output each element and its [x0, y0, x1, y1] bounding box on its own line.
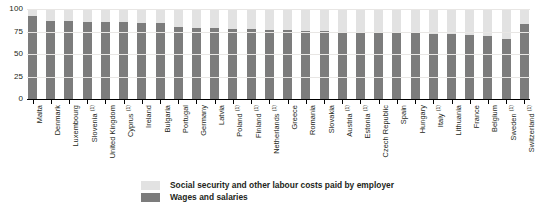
chart-legend: Social security and other labour costs p…	[141, 181, 394, 202]
x-category-label[interactable]: Slovenia (1)	[91, 105, 98, 142]
bar-segment-social-security[interactable]	[392, 9, 401, 33]
x-category-label[interactable]: Finland (1)	[255, 105, 262, 138]
x-category-label[interactable]: Portugal	[182, 105, 189, 133]
bar-segment-wages-salaries[interactable]	[119, 22, 128, 99]
x-category-label[interactable]: Greece	[291, 105, 298, 130]
bar-segment-wages-salaries[interactable]	[411, 33, 420, 99]
bar-segment-social-security[interactable]	[192, 9, 201, 28]
x-category-label[interactable]: Cyprus (1)	[127, 105, 134, 137]
x-category-cell: Czech Republic	[374, 105, 383, 167]
bar-segment-wages-salaries[interactable]	[210, 28, 219, 99]
bar-segment-wages-salaries[interactable]	[320, 31, 329, 99]
bar-segment-social-security[interactable]	[101, 9, 110, 22]
bar-segment-social-security[interactable]	[210, 9, 219, 28]
bar-segment-wages-salaries[interactable]	[192, 28, 201, 99]
bar-segment-wages-salaries[interactable]	[520, 24, 529, 99]
bar-segment-social-security[interactable]	[28, 9, 37, 16]
bar-segment-wages-salaries[interactable]	[301, 31, 310, 99]
x-category-label[interactable]: Bulgaria	[164, 105, 171, 133]
bar-segment-social-security[interactable]	[46, 9, 55, 21]
bar-segment-social-security[interactable]	[174, 9, 183, 27]
x-category-label[interactable]: Belgium	[491, 105, 498, 132]
x-category-cell: Slovenia (1)	[83, 105, 92, 167]
bar-segment-wages-salaries[interactable]	[228, 29, 237, 99]
gridline-75	[27, 32, 530, 33]
bar-segment-wages-salaries[interactable]	[338, 32, 347, 100]
bar-segment-wages-salaries[interactable]	[28, 16, 37, 99]
x-category-label[interactable]: Latvia	[218, 105, 225, 125]
bar-segment-wages-salaries[interactable]	[64, 21, 73, 99]
bar-segment-social-security[interactable]	[447, 9, 456, 34]
bar-segment-social-security[interactable]	[283, 9, 292, 30]
x-category-label[interactable]: Spain	[400, 105, 407, 124]
bar-segment-social-security[interactable]	[338, 9, 347, 32]
bar-segment-wages-salaries[interactable]	[429, 34, 438, 99]
bar-segment-social-security[interactable]	[137, 9, 146, 23]
x-category-label[interactable]: Austria (1)	[346, 105, 353, 137]
x-category-label[interactable]: Italy (1)	[437, 105, 444, 127]
x-category-cell: Slovakia	[320, 105, 329, 167]
bar-segment-social-security[interactable]	[356, 9, 365, 32]
bar-segment-wages-salaries[interactable]	[265, 30, 274, 99]
bar-segment-wages-salaries[interactable]	[465, 35, 474, 99]
x-category-cell: Austria (1)	[338, 105, 347, 167]
gridline-25	[27, 77, 530, 78]
bar-segment-social-security[interactable]	[265, 9, 274, 30]
x-category-cell: Spain	[392, 105, 401, 167]
bar-segment-social-security[interactable]	[83, 9, 92, 22]
bar-segment-social-security[interactable]	[64, 9, 73, 21]
gridline-100	[27, 9, 530, 10]
bar-segment-wages-salaries[interactable]	[447, 34, 456, 99]
footnote-marker: (1)	[125, 105, 131, 111]
x-category-label[interactable]: Ireland	[145, 105, 152, 128]
x-category-label[interactable]: Denmark	[54, 105, 61, 135]
x-category-label[interactable]: Poland (1)	[236, 105, 243, 137]
x-category-label[interactable]: Switzerland (1)	[528, 105, 535, 152]
x-category-label[interactable]: Netherlands (1)	[273, 105, 280, 154]
bar-segment-wages-salaries[interactable]	[101, 22, 110, 99]
legend-item[interactable]: Wages and salaries	[141, 193, 394, 202]
x-category-label[interactable]: Hungary	[419, 105, 426, 133]
bar-segment-wages-salaries[interactable]	[283, 30, 292, 99]
bar-segment-wages-salaries[interactable]	[483, 36, 492, 99]
bar-segment-social-security[interactable]	[228, 9, 237, 29]
bar-segment-wages-salaries[interactable]	[174, 27, 183, 99]
x-category-label[interactable]: Luxembourg	[72, 105, 79, 147]
plot-area	[27, 9, 530, 100]
bar-segment-social-security[interactable]	[429, 9, 438, 34]
x-category-cell: Poland (1)	[228, 105, 237, 167]
bar-segment-social-security[interactable]	[301, 9, 310, 31]
bar-segment-wages-salaries[interactable]	[83, 22, 92, 99]
x-category-label[interactable]: United Kingdom	[109, 105, 116, 158]
bar-segment-social-security[interactable]	[374, 9, 383, 32]
x-category-label[interactable]: France	[473, 105, 480, 128]
bar-segment-social-security[interactable]	[156, 9, 165, 23]
bar-segment-wages-salaries[interactable]	[374, 32, 383, 99]
x-category-label[interactable]: Malta	[36, 105, 43, 123]
x-category-label[interactable]: Czech Republic	[382, 105, 389, 157]
bar-segment-wages-salaries[interactable]	[247, 29, 256, 99]
footnote-marker: (1)	[507, 105, 513, 111]
bar-segment-social-security[interactable]	[520, 9, 529, 24]
bar-segment-social-security[interactable]	[247, 9, 256, 29]
x-category-label[interactable]: Germany	[200, 105, 207, 136]
bar-segment-social-security[interactable]	[119, 9, 128, 22]
x-category-label[interactable]: Slovakia	[328, 105, 335, 133]
legend-item[interactable]: Social security and other labour costs p…	[141, 181, 394, 190]
bar-segment-social-security[interactable]	[320, 9, 329, 31]
bar-segment-wages-salaries[interactable]	[502, 39, 511, 99]
x-category-label[interactable]: Sweden (1)	[510, 105, 517, 140]
bar-segment-wages-salaries[interactable]	[392, 33, 401, 99]
x-category-cell: Estonia (1)	[356, 105, 365, 167]
bar-segment-wages-salaries[interactable]	[156, 23, 165, 99]
x-category-label[interactable]: Lithuania	[455, 105, 462, 135]
bar-segment-wages-salaries[interactable]	[356, 32, 365, 99]
x-category-label[interactable]: Estonia (1)	[364, 105, 371, 138]
bar-segment-social-security[interactable]	[502, 9, 511, 39]
footnote-marker: (1)	[343, 105, 349, 111]
x-category-label[interactable]: Romania	[309, 105, 316, 135]
bar-segment-social-security[interactable]	[411, 9, 420, 33]
y-axis: 0255075100	[0, 0, 26, 100]
bar-segment-wages-salaries[interactable]	[137, 23, 146, 99]
